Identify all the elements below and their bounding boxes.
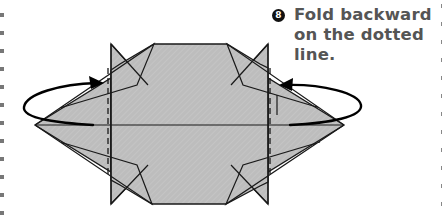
- instruction-line-3: line.: [272, 45, 440, 65]
- instruction-line-1: Fold backward: [294, 5, 432, 24]
- step-number-badge: 8: [272, 9, 285, 22]
- step-instruction: 8Fold backward on the dotted line.: [272, 5, 440, 65]
- instruction-line-2: on the dotted: [272, 25, 440, 45]
